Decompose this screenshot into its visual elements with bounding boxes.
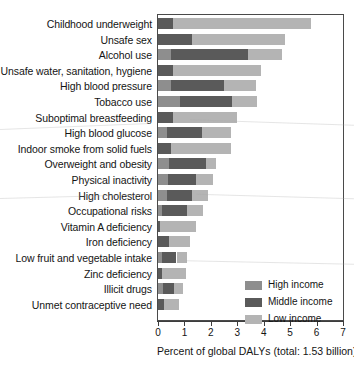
- bar-segment-middle-income: [158, 112, 173, 123]
- bar-track: [158, 112, 237, 123]
- category-label: Unsafe sex: [0, 32, 152, 48]
- bar-segment-middle-income: [158, 65, 173, 76]
- x-tick: [237, 321, 238, 326]
- category-label: Occupational risks: [0, 203, 152, 219]
- bar-track: [158, 221, 196, 232]
- bar-track: [158, 174, 214, 185]
- x-tick: [264, 321, 265, 326]
- category-label: Zinc deficiency: [0, 266, 152, 282]
- bar-segment-high-income: [158, 80, 171, 91]
- bar-segment-low-income: [232, 96, 257, 107]
- bar-track: [158, 143, 231, 154]
- category-label: Low fruit and vegetable intake: [0, 250, 152, 266]
- bar-segment-low-income: [173, 65, 262, 76]
- bar-track: [158, 34, 285, 45]
- category-label: High cholesterol: [0, 188, 152, 204]
- category-label: Tobacco use: [0, 94, 152, 110]
- bar-track: [158, 299, 179, 310]
- bar-segment-middle-income: [171, 80, 224, 91]
- bar-row: Childhood underweight: [0, 16, 354, 32]
- bar-segment-low-income: [206, 158, 217, 169]
- bar-row: High cholesterol: [0, 188, 354, 204]
- bar-segment-middle-income: [158, 18, 173, 29]
- bar-row: Unsafe water, sanitation, hygiene: [0, 63, 354, 79]
- bar-segment-middle-income: [162, 252, 177, 263]
- bar-track: [158, 49, 282, 60]
- bar-row: Unsafe sex: [0, 32, 354, 48]
- x-tick-label: 4: [254, 327, 274, 338]
- bar-segment-middle-income: [169, 158, 206, 169]
- legend-label: Low income: [268, 312, 321, 326]
- bar-row: High blood glucose: [0, 125, 354, 141]
- bar-segment-middle-income: [158, 34, 192, 45]
- category-label: Unmet contraceptive need: [0, 297, 152, 313]
- category-label: High blood glucose: [0, 125, 152, 141]
- bar-segment-high-income: [158, 96, 180, 107]
- bar-track: [158, 96, 257, 107]
- bar-track: [158, 158, 216, 169]
- bar-segment-low-income: [192, 190, 208, 201]
- bar-segment-low-income: [224, 80, 256, 91]
- bar-segment-middle-income: [180, 96, 232, 107]
- category-label: Suboptimal breastfeeding: [0, 110, 152, 126]
- bar-row: Iron deficiency: [0, 234, 354, 250]
- legend-label: High income: [268, 278, 324, 292]
- x-tick: [184, 321, 185, 326]
- bar-segment-low-income: [160, 221, 195, 232]
- bar-segment-middle-income: [162, 205, 187, 216]
- x-tick: [158, 321, 159, 326]
- category-label: Unsafe water, sanitation, hygiene: [0, 63, 152, 79]
- bar-row: Alcohol use: [0, 47, 354, 63]
- bar-segment-low-income: [248, 49, 282, 60]
- category-label: Illicit drugs: [0, 281, 152, 297]
- bar-track: [158, 18, 311, 29]
- x-tick: [343, 321, 344, 326]
- bar-segment-low-income: [187, 205, 203, 216]
- bar-track: [158, 268, 186, 279]
- bar-track: [158, 80, 256, 91]
- bar-segment-middle-income: [158, 143, 171, 154]
- bar-track: [158, 65, 261, 76]
- bar-row: High blood pressure: [0, 78, 354, 94]
- bar-row: Overweight and obesity: [0, 156, 354, 172]
- bar-segment-middle-income: [171, 49, 248, 60]
- category-label: Vitamin A deficiency: [0, 219, 152, 235]
- bar-row: Vitamin A deficiency: [0, 219, 354, 235]
- bar-row: Indoor smoke from solid fuels: [0, 141, 354, 157]
- bar-row: Physical inactivity: [0, 172, 354, 188]
- category-label: High blood pressure: [0, 78, 152, 94]
- bar-segment-middle-income: [167, 127, 201, 138]
- bar-segment-low-income: [169, 236, 191, 247]
- x-tick-label: 3: [227, 327, 247, 338]
- bar-track: [158, 283, 183, 294]
- bar-track: [158, 190, 208, 201]
- category-label: Overweight and obesity: [0, 156, 152, 172]
- bar-segment-low-income: [174, 283, 183, 294]
- bar-segment-middle-income: [167, 190, 192, 201]
- legend-swatch: [245, 298, 262, 307]
- bar-segment-low-income: [173, 18, 312, 29]
- bar-track: [158, 252, 187, 263]
- bar-segment-middle-income: [158, 236, 169, 247]
- x-tick-label: 7: [333, 327, 353, 338]
- stacked-bar-chart: Childhood underweightUnsafe sexAlcohol u…: [0, 0, 354, 374]
- x-tick-label: 1: [174, 327, 194, 338]
- bar-segment-high-income: [158, 158, 169, 169]
- category-label: Iron deficiency: [0, 234, 152, 250]
- bar-segment-middle-income: [168, 174, 196, 185]
- bar-segment-low-income: [171, 143, 230, 154]
- x-tick: [211, 321, 212, 326]
- legend-swatch: [245, 315, 262, 324]
- bar-track: [158, 236, 190, 247]
- bar-segment-high-income: [158, 127, 167, 138]
- x-tick-label: 5: [280, 327, 300, 338]
- x-tick-label: 0: [148, 327, 168, 338]
- bar-segment-high-income: [158, 190, 167, 201]
- bar-track: [158, 127, 231, 138]
- legend-label: Middle income: [268, 295, 332, 309]
- bar-segment-low-income: [196, 174, 214, 185]
- bar-segment-low-income: [177, 252, 187, 263]
- x-axis-title: Percent of global DALYs (total: 1.53 bil…: [157, 345, 354, 357]
- category-label: Childhood underweight: [0, 16, 152, 32]
- bar-row: Occupational risks: [0, 203, 354, 219]
